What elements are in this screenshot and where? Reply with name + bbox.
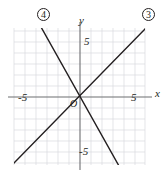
x-axis-tick-label-positive-5: 5 — [131, 92, 137, 103]
x-axis-label: x — [155, 88, 160, 99]
x-axis-tick-label-negative-5: -5 — [18, 92, 27, 103]
origin-label: O — [70, 99, 77, 109]
line-callout-4: 4 — [37, 8, 50, 21]
coordinate-plane-figure: -5 5 5 -5 x y O 4 3 — [0, 0, 168, 177]
y-axis-tick-label-negative-5: -5 — [79, 146, 88, 157]
y-axis-label: y — [79, 15, 84, 26]
line-callout-3: 3 — [142, 8, 155, 21]
y-axis-tick-label-positive-5: 5 — [84, 36, 90, 47]
